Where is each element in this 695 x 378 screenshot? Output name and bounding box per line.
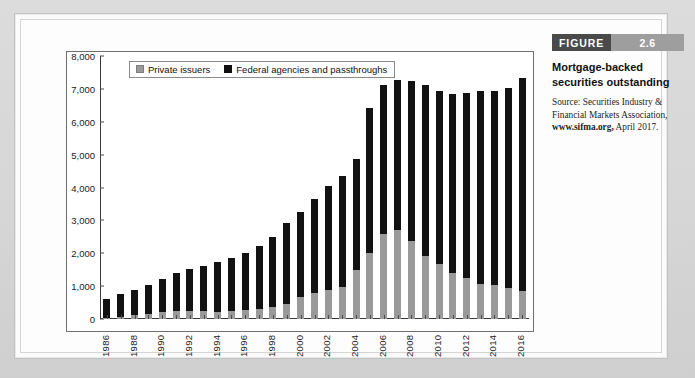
bar-2011 xyxy=(449,93,456,319)
bar-2001 xyxy=(311,199,318,319)
bar-segment-federal-agencies xyxy=(145,285,152,315)
x-axis-tick-mark xyxy=(176,315,177,319)
bar-segment-federal-agencies xyxy=(477,91,484,284)
legend-label-private-issuers: Private issuers xyxy=(148,64,210,75)
bar-segment-federal-agencies xyxy=(353,159,360,270)
x-axis-tick-label-1992: 1992 xyxy=(183,335,194,357)
bar-segment-federal-agencies xyxy=(325,186,332,290)
y-axis-tick-mark xyxy=(100,187,104,188)
x-axis-tick-mark xyxy=(245,315,246,319)
chart-legend: Private issuers Federal agencies and pas… xyxy=(129,61,395,78)
x-axis-tick-mark xyxy=(356,315,357,319)
x-axis-tick-mark xyxy=(439,315,440,319)
bar-2008 xyxy=(408,81,415,319)
x-axis-tick-mark xyxy=(259,315,260,319)
x-axis-tick-label-1990: 1990 xyxy=(155,335,166,357)
bar-segment-private-issuers xyxy=(463,278,470,319)
bar-2010 xyxy=(436,91,443,319)
x-axis-tick-label-1986: 1986 xyxy=(100,335,111,357)
figure-card-inner: $ billion 01,0002,0003,0004,0005,0006,00… xyxy=(20,19,662,353)
bar-1992 xyxy=(186,269,193,319)
x-axis-tick-mark xyxy=(148,315,149,319)
bar-1989 xyxy=(145,284,152,319)
bar-segment-federal-agencies xyxy=(422,85,429,255)
figure-caption-panel: FIGURE 2.6 Mortgage-backed securities ou… xyxy=(552,34,692,184)
bar-2007 xyxy=(394,80,401,319)
x-axis-tick-mark xyxy=(411,315,412,319)
bar-2009 xyxy=(422,85,429,319)
bar-segment-federal-agencies xyxy=(228,258,235,311)
x-axis-tick-mark xyxy=(494,315,495,319)
x-axis-tick-label-1998: 1998 xyxy=(266,335,277,357)
bar-segment-federal-agencies xyxy=(242,253,249,311)
bar-segment-federal-agencies xyxy=(283,223,290,304)
x-axis-tick-mark xyxy=(107,315,108,319)
x-axis-tick-mark xyxy=(218,315,219,319)
bar-2000 xyxy=(297,212,304,319)
bar-2004 xyxy=(353,159,360,319)
bar-1993 xyxy=(200,266,207,319)
y-axis-tick-label: 4,000 xyxy=(71,182,95,193)
x-axis-tick-mark xyxy=(287,315,288,319)
y-axis-tick-label: 3,000 xyxy=(71,215,95,226)
source-suffix-text: April 2017. xyxy=(614,122,659,132)
bar-segment-private-issuers xyxy=(353,270,360,319)
y-axis-tick-mark xyxy=(100,286,104,287)
y-axis-tick-label: 7,000 xyxy=(71,83,95,94)
x-axis-tick-label-2010: 2010 xyxy=(432,335,443,357)
legend-label-federal-agencies: Federal agencies and passthroughs xyxy=(236,64,387,75)
bar-segment-private-issuers xyxy=(449,273,456,319)
bar-segment-federal-agencies xyxy=(380,85,387,234)
bar-segment-federal-agencies xyxy=(159,279,166,313)
x-axis-tick-mark xyxy=(301,315,302,319)
y-axis-tick-mark xyxy=(100,121,104,122)
legend-item-federal-agencies: Federal agencies and passthroughs xyxy=(224,64,387,75)
bar-2016 xyxy=(519,78,526,319)
bar-segment-federal-agencies xyxy=(505,88,512,289)
x-axis-tick-mark xyxy=(190,315,191,319)
bar-segment-federal-agencies xyxy=(366,108,373,253)
bar-segment-federal-agencies xyxy=(117,294,124,317)
figure-number-label: 2.6 xyxy=(611,34,684,51)
figure-title: Mortgage-backed securities outstanding xyxy=(552,60,678,89)
x-axis-tick-label-1996: 1996 xyxy=(238,335,249,357)
x-axis-tick-mark xyxy=(135,315,136,319)
bar-segment-federal-agencies xyxy=(449,94,456,273)
bar-segment-federal-agencies xyxy=(311,199,318,293)
x-axis-tick-label-2006: 2006 xyxy=(377,335,388,357)
figure-word-label: FIGURE xyxy=(552,34,611,51)
x-axis-tick-mark xyxy=(481,315,482,319)
bar-segment-federal-agencies xyxy=(436,91,443,265)
bar-segment-federal-agencies xyxy=(297,212,304,296)
legend-swatch-federal-agencies xyxy=(224,65,232,73)
x-axis-tick-mark xyxy=(328,315,329,319)
bar-segment-federal-agencies xyxy=(269,237,276,307)
bar-2002 xyxy=(325,186,332,319)
x-axis-tick-mark xyxy=(121,315,122,319)
x-axis-tick-label-2012: 2012 xyxy=(460,335,471,357)
y-axis-tick-mark xyxy=(100,220,104,221)
bar-segment-private-issuers xyxy=(422,256,429,319)
x-axis-tick-label-2000: 2000 xyxy=(294,335,305,357)
bar-1991 xyxy=(173,273,180,319)
bar-segment-federal-agencies xyxy=(339,176,346,288)
y-axis-tick-mark xyxy=(100,253,104,254)
bar-1995 xyxy=(228,258,235,319)
bar-segment-private-issuers xyxy=(394,230,401,319)
x-axis-tick-label-2016: 2016 xyxy=(515,335,526,357)
bar-1990 xyxy=(159,279,166,319)
y-axis-tick-mark xyxy=(100,154,104,155)
source-prefix-text: Source: Securities Industry & Financial … xyxy=(552,97,667,119)
y-axis-tick-mark xyxy=(100,88,104,89)
bar-segment-federal-agencies xyxy=(131,290,138,315)
source-url-text: www.sifma.org, xyxy=(552,122,614,132)
bar-1996 xyxy=(242,253,249,319)
bar-segment-federal-agencies xyxy=(519,78,526,290)
y-axis-tick-label: 6,000 xyxy=(71,116,95,127)
bar-2005 xyxy=(366,108,373,319)
bar-1997 xyxy=(256,246,263,319)
x-axis-tick-mark xyxy=(231,315,232,319)
bar-2003 xyxy=(339,176,346,319)
x-axis-tick-mark xyxy=(162,315,163,319)
bar-1998 xyxy=(269,237,276,319)
